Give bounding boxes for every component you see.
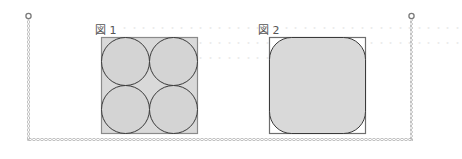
figure-2 bbox=[270, 38, 366, 134]
chain-ring-left-icon bbox=[26, 13, 31, 18]
figure-1-circle-top-left bbox=[102, 38, 150, 86]
figure-1-circle-bottom-right bbox=[150, 86, 198, 134]
figure-1-circle-bottom-left bbox=[102, 86, 150, 134]
chain-border-bottom bbox=[27, 138, 413, 141]
figure-2-rounded-square bbox=[270, 38, 366, 134]
figure-1 bbox=[102, 38, 198, 134]
chain-ring-right-icon bbox=[409, 13, 414, 18]
chain-border-left bbox=[27, 19, 30, 141]
chain-border-right bbox=[410, 19, 413, 141]
figure-2-label: 図 2 bbox=[258, 21, 280, 37]
figure-1-circle-top-right bbox=[150, 38, 198, 86]
figure-1-label: 図 1 bbox=[95, 21, 117, 37]
